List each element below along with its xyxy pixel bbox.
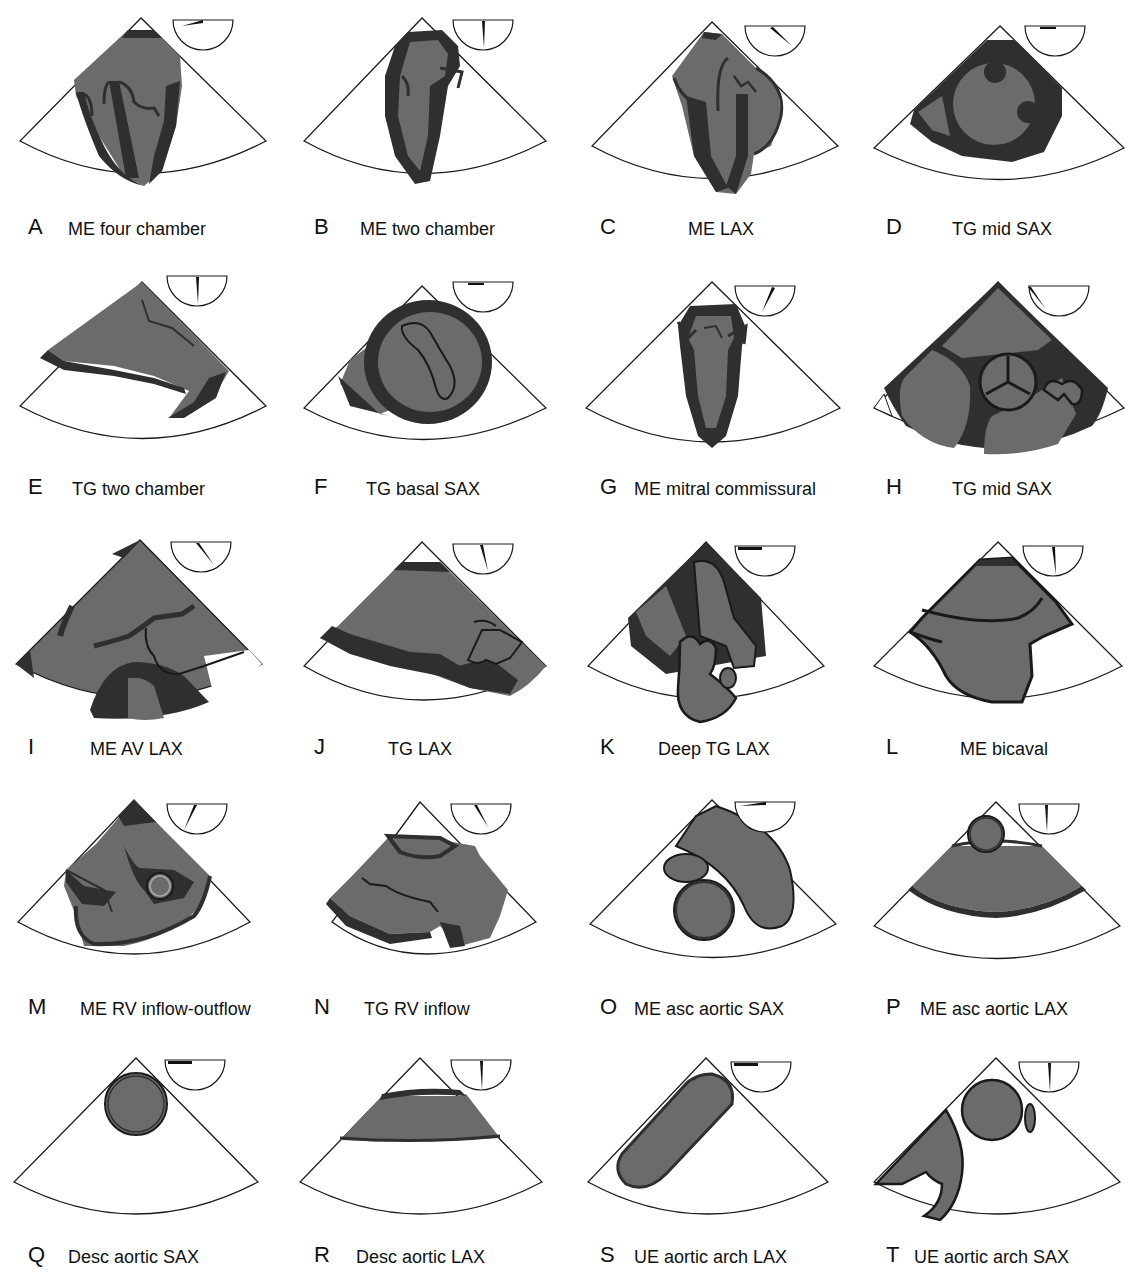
panel-o-me-asc-aortic-sax: O ME asc aortic SAX (576, 786, 858, 1044)
panel-letter: J (314, 732, 325, 762)
echo-sector-diagram (4, 6, 286, 212)
panel-caption: E TG two chamber (4, 472, 286, 502)
panel-caption: S UE aortic arch LAX (576, 1240, 858, 1270)
panel-letter: D (886, 212, 902, 242)
panel-caption: P ME asc aortic LAX (862, 992, 1130, 1022)
probe-angle-icon (1026, 282, 1096, 322)
panel-caption: A ME four chamber (4, 212, 286, 242)
panel-letter: S (600, 1240, 615, 1270)
probe-angle-icon (732, 798, 802, 838)
panel-title: UE aortic arch SAX (914, 1242, 1069, 1272)
panel-letter: Q (28, 1240, 45, 1270)
echo-sector-diagram (4, 1034, 286, 1240)
panel-letter: P (886, 992, 901, 1022)
probe-angle-icon (1022, 22, 1092, 62)
echo-sector-diagram (862, 1034, 1130, 1240)
probe-angle-icon (450, 540, 520, 580)
panel-i-me-av-lax: I ME AV LAX (4, 526, 286, 784)
echo-sector-diagram (290, 1034, 572, 1240)
panel-title: TG mid SAX (952, 214, 1052, 244)
panel-letter: B (314, 212, 329, 242)
panel-title: Deep TG LAX (658, 734, 770, 764)
probe-angle-icon (732, 282, 802, 322)
panel-letter: H (886, 472, 902, 502)
panel-g-me-mitral-commissural: G ME mitral commissural (576, 266, 858, 524)
probe-angle-icon (728, 1058, 798, 1098)
echo-sector-diagram (576, 1034, 858, 1240)
probe-angle-icon (164, 272, 234, 312)
panel-n-tg-rv-inflow: N TG RV inflow (290, 786, 572, 1044)
probe-angle-icon (168, 538, 238, 578)
panel-d-tg-mid-sax: D TG mid SAX (862, 6, 1130, 264)
panel-letter: N (314, 992, 330, 1022)
panel-f-tg-basal-sax: F TG basal SAX (290, 266, 572, 524)
echo-sector-diagram (290, 526, 572, 732)
probe-angle-icon (742, 22, 812, 62)
panel-title: ME RV inflow-outflow (80, 994, 251, 1024)
echo-sector-diagram (4, 266, 286, 472)
panel-caption: D TG mid SAX (862, 212, 1130, 242)
panel-title: ME mitral commissural (634, 474, 816, 504)
panel-caption: Q Desc aortic SAX (4, 1240, 286, 1270)
probe-angle-icon (1016, 1058, 1086, 1098)
panel-title: ME four chamber (68, 214, 206, 244)
panel-m-me-rv-inflow-outflow: M ME RV inflow-outflow (4, 786, 286, 1044)
panel-title: ME two chamber (360, 214, 495, 244)
probe-angle-icon (162, 1056, 232, 1096)
probe-angle-icon (448, 800, 518, 840)
probe-angle-icon (732, 542, 802, 582)
panel-caption: K Deep TG LAX (576, 732, 858, 762)
panel-letter: T (886, 1240, 899, 1270)
panel-l-me-bicaval: L ME bicaval (862, 526, 1130, 784)
panel-title: TG LAX (388, 734, 452, 764)
panel-letter: F (314, 472, 327, 502)
panel-caption: R Desc aortic LAX (290, 1240, 572, 1270)
panel-letter: C (600, 212, 616, 242)
panel-caption: M ME RV inflow-outflow (4, 992, 286, 1022)
panel-a-me-four-chamber: A ME four chamber (4, 6, 286, 264)
panel-caption: F TG basal SAX (290, 472, 572, 502)
panel-caption: B ME two chamber (290, 212, 572, 242)
echo-sector-diagram (4, 786, 286, 992)
panel-h-tg-mid-sax: H TG mid SAX (862, 266, 1130, 524)
echo-sector-diagram (290, 786, 572, 992)
panel-title: TG two chamber (72, 474, 205, 504)
panel-k-deep-tg-lax: K Deep TG LAX (576, 526, 858, 784)
probe-angle-icon (450, 16, 520, 56)
panel-caption: C ME LAX (576, 212, 858, 242)
panel-t-ue-aortic-arch-sax: T UE aortic arch SAX (862, 1034, 1130, 1288)
panel-letter: L (886, 732, 898, 762)
panel-title: ME asc aortic LAX (920, 994, 1068, 1024)
panel-b-me-two-chamber: B ME two chamber (290, 6, 572, 264)
panel-caption: L ME bicaval (862, 732, 1130, 762)
panel-caption: H TG mid SAX (862, 472, 1130, 502)
echo-sector-diagram (576, 526, 858, 732)
probe-angle-icon (164, 800, 234, 840)
panel-title: TG mid SAX (952, 474, 1052, 504)
panel-title: ME asc aortic SAX (634, 994, 784, 1024)
panel-letter: E (28, 472, 43, 502)
probe-angle-icon (1016, 800, 1086, 840)
probe-angle-icon (450, 278, 520, 318)
panel-title: Desc aortic LAX (356, 1242, 485, 1272)
panel-title: ME bicaval (960, 734, 1048, 764)
echo-sector-diagram (576, 6, 858, 212)
panel-letter: I (28, 732, 34, 762)
panel-j-tg-lax: J TG LAX (290, 526, 572, 784)
panel-caption: J TG LAX (290, 732, 572, 762)
panel-letter: A (28, 212, 43, 242)
echo-sector-diagram (4, 526, 286, 732)
probe-angle-icon (1020, 542, 1090, 582)
panel-title: ME AV LAX (90, 734, 183, 764)
panel-caption: T UE aortic arch SAX (862, 1240, 1130, 1270)
panel-letter: K (600, 732, 615, 762)
panel-title: Desc aortic SAX (68, 1242, 199, 1272)
panel-r-desc-aortic-lax: R Desc aortic LAX (290, 1034, 572, 1288)
panel-caption: O ME asc aortic SAX (576, 992, 858, 1022)
panel-p-me-asc-aortic-lax: P ME asc aortic LAX (862, 786, 1130, 1044)
echo-sector-diagram (290, 266, 572, 472)
panel-caption: G ME mitral commissural (576, 472, 858, 502)
panel-letter: O (600, 992, 617, 1022)
panel-title: ME LAX (688, 214, 754, 244)
panel-title: TG RV inflow (364, 994, 470, 1024)
